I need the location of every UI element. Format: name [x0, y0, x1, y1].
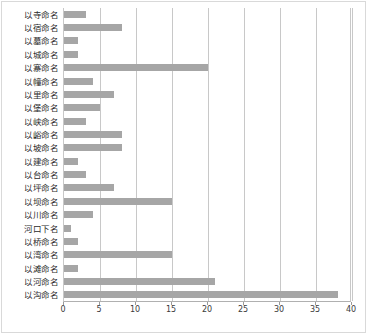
bar [64, 198, 172, 205]
bar [64, 265, 78, 272]
category-label: 以湾命名 [4, 248, 59, 262]
bar-row [64, 248, 352, 262]
bar [64, 144, 122, 151]
bar-row [64, 34, 352, 48]
plot-area [63, 8, 351, 302]
category-label: 以幢命名 [4, 75, 59, 89]
category-label: 以台命名 [4, 168, 59, 182]
bar-row [64, 275, 352, 289]
bar [64, 118, 86, 125]
category-label: 以墓命名 [4, 34, 59, 48]
category-label: 以峪命名 [4, 128, 59, 142]
bar-row [64, 181, 352, 195]
category-label: 以峡命名 [4, 115, 59, 129]
bar [64, 251, 172, 258]
bar [64, 51, 78, 58]
bar [64, 291, 338, 298]
bar [64, 158, 78, 165]
category-label: 以建命名 [4, 155, 59, 169]
bar [64, 11, 86, 18]
bar-row [64, 101, 352, 115]
category-label: 以堡命名 [4, 101, 59, 115]
category-label: 以河命名 [4, 275, 59, 289]
bar [64, 184, 114, 191]
value-tick-label: 35 [310, 305, 320, 314]
category-label: 以滩命名 [4, 262, 59, 276]
bar-row [64, 21, 352, 35]
bar-row [64, 235, 352, 249]
value-tick-label: 15 [166, 305, 176, 314]
bar-row [64, 115, 352, 129]
value-tick-label: 40 [346, 305, 356, 314]
bar [64, 24, 122, 31]
bar [64, 171, 86, 178]
bar [64, 211, 93, 218]
bar [64, 238, 78, 245]
bar-row [64, 128, 352, 142]
bar-row [64, 155, 352, 169]
value-tick-label: 20 [202, 305, 212, 314]
bar-row [64, 262, 352, 276]
bar-row [64, 48, 352, 62]
category-label: 以坪命名 [4, 181, 59, 195]
category-label: 以川命名 [4, 208, 59, 222]
bar-row [64, 168, 352, 182]
value-tick-label: 30 [274, 305, 284, 314]
category-label: 以坡命名 [4, 141, 59, 155]
value-tick-label: 25 [238, 305, 248, 314]
category-label: 以宿命名 [4, 21, 59, 35]
category-label: 以寨命名 [4, 61, 59, 75]
bar-row [64, 141, 352, 155]
bar-row [64, 288, 352, 302]
bar [64, 64, 208, 71]
bar-chart-figure: 以寺命名以宿命名以墓命名以城命名以寨命名以幢命名以里命名以堡命名以峡命名以峪命名… [0, 0, 367, 334]
category-label: 以沟命名 [4, 288, 59, 302]
bar [64, 278, 215, 285]
category-label: 以里命名 [4, 88, 59, 102]
value-tick-label: 0 [60, 305, 65, 314]
bar [64, 78, 93, 85]
bar-row [64, 195, 352, 209]
category-label: 以寺命名 [4, 8, 59, 22]
bar-row [64, 222, 352, 236]
category-label: 以城命名 [4, 48, 59, 62]
bar [64, 131, 122, 138]
category-label: 以坝命名 [4, 195, 59, 209]
bar-row [64, 75, 352, 89]
category-label: 河口下名 [4, 222, 59, 236]
category-label: 以桥命名 [4, 235, 59, 249]
bar [64, 91, 114, 98]
bar-row [64, 8, 352, 22]
bar [64, 37, 78, 44]
bar-row [64, 88, 352, 102]
value-tick-label: 10 [130, 305, 140, 314]
bar [64, 104, 100, 111]
gridline [352, 8, 353, 301]
category-axis-labels: 以寺命名以宿命名以墓命名以城命名以寨命名以幢命名以里命名以堡命名以峡命名以峪命名… [4, 8, 59, 302]
value-tick-label: 5 [96, 305, 101, 314]
bar-row [64, 61, 352, 75]
bar-row [64, 208, 352, 222]
bar [64, 225, 71, 232]
